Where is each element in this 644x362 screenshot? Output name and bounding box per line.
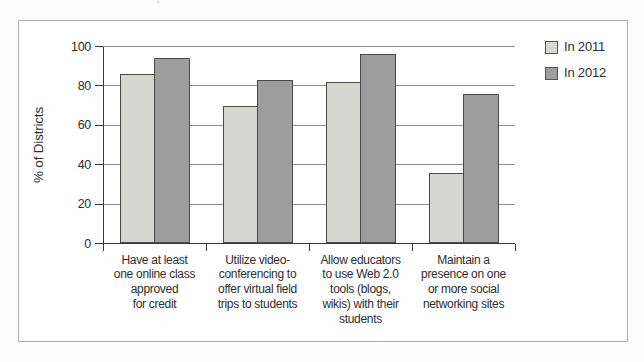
category-label: Have at least one online class approved … [99,253,211,312]
y-tick-label: 80 [57,80,91,92]
legend-label: In 2011 [564,40,605,54]
legend-swatch [545,67,558,80]
legend: In 2011In 2012 [545,40,606,92]
bar-in-2012-cat1 [257,80,293,244]
bar-in-2011-cat3 [429,173,464,244]
x-tick-mark [412,244,413,251]
bar-in-2012-cat0 [154,58,190,243]
x-tick-mark [206,244,207,251]
y-axis-title: % of Districts [31,107,46,183]
category-label: Maintain a presence on one or more socia… [408,253,520,312]
category-label: Allow educators to use Web 2.0 tools (bl… [305,253,417,327]
y-tick-label: 40 [57,159,91,171]
legend-item: In 2011 [545,40,606,54]
bar-in-2011-cat1 [223,106,258,244]
legend-item: In 2012 [545,66,606,80]
legend-swatch [545,41,558,54]
category-label: Utilize video- conferencing to offer vir… [202,253,314,312]
y-axis-line [103,47,104,244]
y-tick-label: 0 [57,238,91,250]
bar-in-2012-cat2 [360,54,396,243]
bar-in-2011-cat0 [120,74,155,243]
legend-label: In 2012 [564,66,606,80]
x-tick-mark [309,244,310,251]
bar-in-2011-cat2 [326,82,361,244]
bar-in-2012-cat3 [463,94,499,244]
page: ' % of Districts 020406080100Have at lea… [0,0,644,362]
x-tick-mark [515,244,516,251]
gridline [103,46,515,47]
y-tick-label: 60 [57,119,91,131]
y-tick-label: 100 [57,41,91,53]
x-tick-mark [103,244,104,251]
stray-scan-mark: ' [157,0,159,11]
y-tick-label: 20 [57,198,91,210]
